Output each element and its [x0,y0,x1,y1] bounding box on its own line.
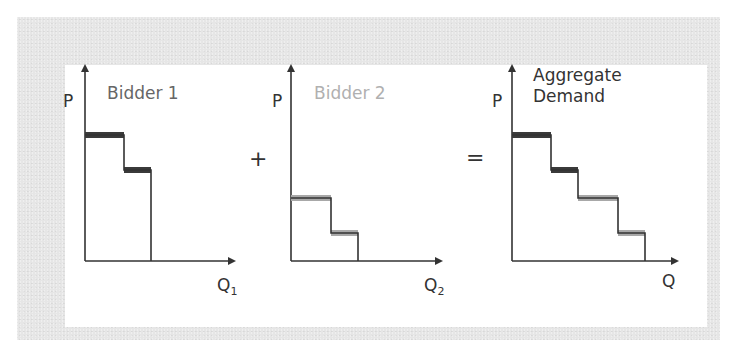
demand-step-line [512,135,645,261]
x-axis-label-q2: Q2 [424,277,444,297]
demand-step-line [85,135,151,261]
y-axis-label-p: P [63,93,73,110]
equals-operator: = [466,147,484,169]
panel-title-bidder-1: Bidder 1 [107,83,179,104]
plus-operator: + [249,148,267,170]
panel-title-bidder-2: Bidder 2 [314,83,386,104]
title-line-1: Aggregate [533,65,622,86]
demand-step-line [291,198,358,261]
title-line-2: Demand [533,86,622,107]
y-axis-label-p: P [272,93,282,110]
x-axis-label-q1: Q1 [217,277,237,297]
y-axis-label-p: P [492,93,502,110]
x-axis-label-q: Q [662,273,675,290]
demand-aggregation-diagram [0,0,739,361]
panel-title-aggregate-demand: Aggregate Demand [533,65,622,107]
